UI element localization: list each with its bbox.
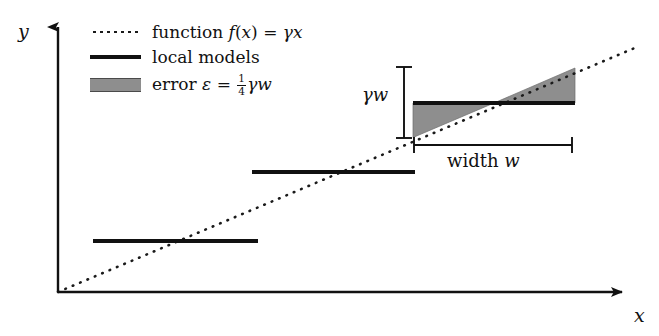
- gamma-w-label: γw: [362, 86, 388, 104]
- legend-label-function: function f(x) = γx: [152, 22, 303, 42]
- legend-error-frac-numerator: 1: [237, 73, 246, 85]
- legend-function-gamma: γ: [283, 22, 293, 42]
- gamma-w-measure-bar: [396, 67, 412, 138]
- x-axis-label: x: [634, 306, 645, 325]
- gray-fill-swatch-icon: [90, 78, 141, 92]
- legend-item-error: error ε = 14γw: [90, 73, 272, 97]
- legend-error-fraction: 14: [237, 73, 246, 96]
- legend-function-paren-open: (: [235, 22, 242, 42]
- error-triangle-above: [494, 68, 575, 103]
- legend-error-word: error: [152, 75, 197, 95]
- legend-function-paren-close: ): [251, 22, 258, 42]
- figure-container: y x function f(x) = γx local models erro…: [0, 0, 659, 336]
- gamma-w-w: w: [373, 84, 388, 105]
- legend-function-rhs-var: x: [293, 22, 303, 42]
- legend-label-local-models: local models: [152, 47, 260, 67]
- dotted-line-swatch-icon: [90, 25, 141, 39]
- gamma-w-gamma: γ: [362, 84, 373, 105]
- legend-function-word: function: [152, 22, 223, 42]
- y-axis-label: y: [18, 22, 29, 41]
- width-var: w: [504, 150, 519, 171]
- width-w-label: width w: [447, 152, 520, 170]
- legend-function-var: x: [242, 22, 252, 42]
- local-models-group: [93, 103, 575, 241]
- solid-line-swatch-icon: [90, 50, 141, 64]
- legend-item-function: function f(x) = γx: [90, 20, 303, 44]
- legend-item-local-models: local models: [90, 45, 260, 69]
- legend-error-epsilon: ε: [202, 75, 211, 95]
- legend-function-equals: =: [263, 22, 277, 42]
- legend-error-frac-denominator: 4: [237, 86, 246, 97]
- legend-error-equals: =: [217, 75, 231, 95]
- legend-error-w: w: [257, 75, 272, 95]
- width-word: width: [447, 150, 499, 171]
- legend-error-gamma: γ: [247, 75, 257, 95]
- legend-label-error: error ε = 14γw: [152, 73, 272, 96]
- error-triangle-below: [413, 103, 494, 138]
